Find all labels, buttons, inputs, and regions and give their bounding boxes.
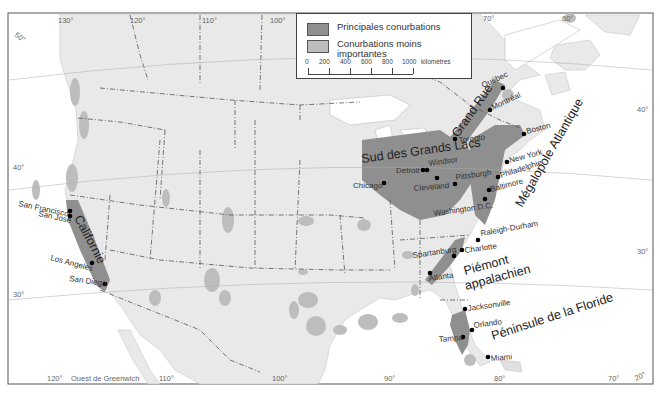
city-label: Chicago (353, 181, 383, 190)
lon-label: 110° (202, 16, 217, 25)
scale-tick-label: 1000 (402, 58, 416, 65)
lon-label: 100° (272, 374, 288, 383)
city-label: Miami (490, 352, 512, 363)
scale-tick-label: 600 (361, 58, 372, 65)
scale-tick (413, 68, 414, 74)
lon-label: 120° (130, 16, 146, 25)
scale-tick (350, 68, 351, 74)
scale-tick-label: 0 (305, 58, 309, 65)
legend-swatch-minor (307, 40, 329, 53)
legend-label-minor: Conurbations moins importantes (337, 39, 457, 59)
scale-bar: 0 200 400 600 800 1000 kilomètres (305, 58, 465, 76)
scale-tick-label: 200 (319, 58, 330, 65)
scale-tick (308, 68, 309, 74)
legend-swatch-major (307, 23, 329, 36)
lon-label: 130° (58, 16, 74, 25)
lon-label: 80° (494, 374, 505, 383)
legend-label-major: Principales conurbations (337, 22, 457, 32)
scale-tick-label: 400 (340, 58, 351, 65)
city-label: Detroit (396, 166, 420, 175)
lat-label: 40° (13, 163, 24, 172)
legend-item-minor: Conurbations moins importantes (307, 39, 457, 59)
lat-label: 30° (637, 247, 648, 256)
legend: Principales conurbations Conurbations mo… (296, 13, 472, 79)
scale-tick (392, 68, 393, 74)
scale-tick-label: 800 (382, 58, 393, 65)
lon-label: 100° (270, 16, 286, 25)
scale-line (308, 70, 413, 75)
lat-label: 40° (637, 105, 648, 114)
lon-label: 120° (47, 374, 63, 383)
lon-label: 60° (562, 14, 573, 23)
lon-label: 70° (483, 14, 494, 23)
lon-label: 90° (384, 374, 395, 383)
scale-tick (371, 68, 372, 74)
lat-label: 30° (13, 290, 24, 299)
scale-tick (329, 68, 330, 74)
lon-label: 70° (608, 374, 619, 383)
scale-unit: kilomètres (421, 58, 451, 65)
greenwich-note: Ouest de Greenwich (71, 374, 139, 383)
lon-label: 110° (159, 374, 174, 383)
legend-item-major: Principales conurbations (307, 22, 457, 36)
